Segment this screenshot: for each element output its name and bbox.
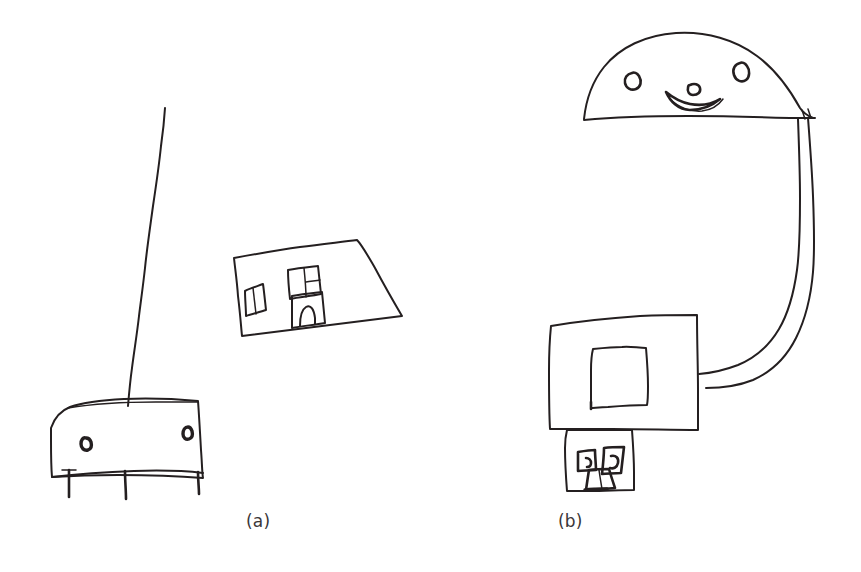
face-right-eye-pupil <box>610 456 618 469</box>
curved-arm-inner <box>699 119 800 374</box>
big-square <box>549 315 698 430</box>
dome-left-eye <box>625 73 641 90</box>
vehicle-right-wheel-mark <box>183 427 192 439</box>
panel-b-caption: (b) <box>558 511 583 531</box>
panel-a-drawing <box>51 108 402 499</box>
house-door-arch <box>300 306 315 326</box>
vehicle-left-wheel-mark <box>81 438 91 450</box>
vehicle-leg-middle <box>125 471 126 499</box>
house-quadrilateral <box>234 240 402 336</box>
vehicle-leg-right <box>198 472 199 494</box>
panel-a-caption: (a) <box>246 511 270 531</box>
dome-baseline <box>584 116 815 120</box>
house-upper-window-mullion-h <box>306 280 320 282</box>
dome-mouth-tooth <box>688 84 700 95</box>
figure-canvas <box>0 0 861 572</box>
panel-b-drawing <box>549 33 815 491</box>
face-left-eye-pupil <box>586 458 591 467</box>
face-mouth-base <box>585 489 607 490</box>
dome-right-eye <box>733 63 749 82</box>
vehicle-body <box>51 399 203 478</box>
house-left-window-pane <box>253 288 256 314</box>
inner-square <box>591 347 648 408</box>
figure-root: (a) (b) <box>0 0 861 572</box>
vertical-pole-line <box>128 108 165 406</box>
